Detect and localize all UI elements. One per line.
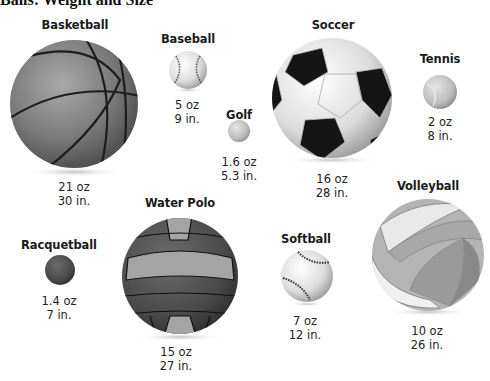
- baseball-icon: [169, 51, 207, 93]
- weight-baseball: 5 oz: [174, 98, 199, 112]
- soccer-ball-icon: [258, 38, 395, 164]
- size-baseball: 9 in.: [174, 112, 199, 126]
- label-tennis: Tennis: [420, 52, 461, 66]
- stats-racquetball: 1.4 oz 7 in.: [41, 294, 76, 322]
- size-softball: 12 in.: [289, 328, 321, 342]
- weight-volleyball: 10 oz: [411, 324, 443, 338]
- label-softball: Softball: [281, 232, 331, 246]
- label-golf: Golf: [226, 108, 252, 122]
- stats-water-polo: 15 oz 27 in.: [160, 345, 192, 373]
- weight-racquetball: 1.4 oz: [41, 294, 76, 308]
- weight-golf: 1.6 oz: [221, 155, 257, 169]
- stats-golf: 1.6 oz 5.3 in.: [221, 155, 257, 183]
- label-water-polo: Water Polo: [145, 196, 215, 210]
- stats-tennis: 2 oz 8 in.: [427, 115, 452, 143]
- weight-tennis: 2 oz: [427, 115, 452, 129]
- volleyball-icon: [372, 199, 484, 316]
- label-basketball: Basketball: [42, 18, 109, 32]
- size-golf: 5.3 in.: [221, 169, 257, 183]
- size-basketball: 30 in.: [58, 194, 90, 208]
- size-racquetball: 7 in.: [41, 308, 76, 322]
- weight-water-polo: 15 oz: [160, 345, 192, 359]
- golf-ball-icon: [228, 120, 250, 142]
- weight-soccer: 16 oz: [316, 172, 348, 186]
- size-tennis: 8 in.: [427, 129, 452, 143]
- label-baseball: Baseball: [161, 32, 215, 46]
- stats-softball: 7 oz 12 in.: [289, 314, 321, 342]
- stats-baseball: 5 oz 9 in.: [174, 98, 199, 126]
- size-water-polo: 27 in.: [160, 359, 192, 373]
- tennis-ball-icon: [423, 75, 457, 109]
- weight-basketball: 21 oz: [58, 180, 90, 194]
- basketball-icon: [10, 38, 140, 177]
- label-volleyball: Volleyball: [397, 179, 459, 193]
- racquetball-icon: [45, 255, 75, 285]
- stats-volleyball: 10 oz 26 in.: [411, 324, 443, 352]
- stats-basketball: 21 oz 30 in.: [58, 180, 90, 208]
- softball-icon: [281, 250, 333, 307]
- water-polo-ball-icon: [122, 216, 238, 341]
- weight-softball: 7 oz: [289, 314, 321, 328]
- size-volleyball: 26 in.: [411, 338, 443, 352]
- stats-soccer: 16 oz 28 in.: [316, 172, 348, 200]
- label-racquetball: Racquetball: [21, 238, 97, 252]
- size-soccer: 28 in.: [316, 186, 348, 200]
- label-soccer: Soccer: [312, 18, 355, 32]
